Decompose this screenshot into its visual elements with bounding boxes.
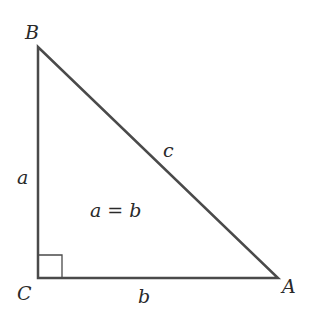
side-label-b: b [138,285,150,307]
right-angle-marker [38,255,62,278]
vertex-label-c: C [17,282,32,304]
vertex-label-a: A [280,275,296,297]
side-label-a: a [17,166,28,188]
triangle-outline [38,47,278,278]
vertex-label-b: B [24,21,39,43]
side-label-c: c [163,139,174,161]
right-triangle-diagram: B C A a b c a = b [0,0,309,317]
relation-label: a = b [90,199,142,221]
